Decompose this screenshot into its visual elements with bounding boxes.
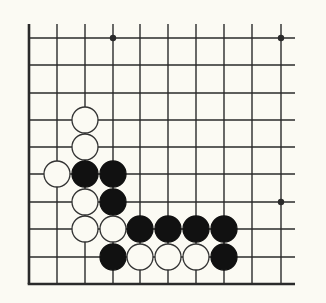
white-stone	[183, 244, 209, 270]
white-stone	[72, 134, 98, 160]
star-point-icon	[278, 35, 284, 41]
black-stone	[211, 244, 237, 270]
black-stone	[211, 216, 237, 242]
black-stone	[72, 161, 98, 187]
black-stone	[183, 216, 209, 242]
white-stone	[44, 161, 70, 187]
white-stone	[100, 216, 126, 242]
black-stone	[100, 161, 126, 187]
star-point-icon	[278, 199, 284, 205]
black-stone	[155, 216, 181, 242]
white-stone	[72, 216, 98, 242]
black-stone	[100, 244, 126, 270]
star-point-icon	[110, 35, 116, 41]
white-stone	[127, 244, 153, 270]
grid-lines	[28, 24, 295, 284]
go-board	[0, 0, 326, 303]
white-stone	[72, 189, 98, 215]
black-stone	[100, 189, 126, 215]
white-stone	[155, 244, 181, 270]
black-stone	[127, 216, 153, 242]
white-stone	[72, 107, 98, 133]
